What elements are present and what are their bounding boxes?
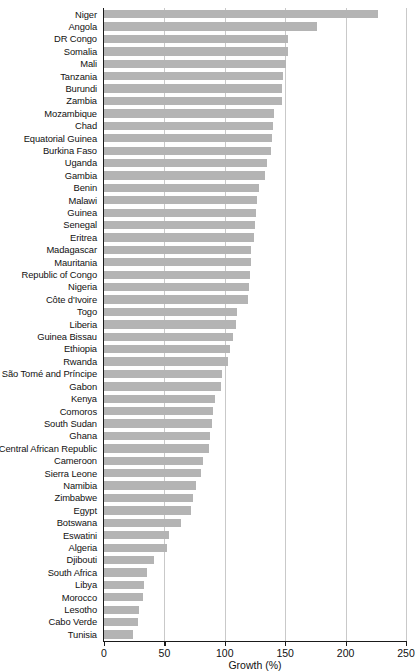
y-axis-label: Côte d'Ivoire bbox=[0, 293, 101, 305]
x-axis-tick-label: 150 bbox=[276, 647, 294, 659]
bar-row bbox=[104, 269, 406, 281]
y-axis-label: Eritrea bbox=[0, 231, 101, 243]
y-axis-label: Guinea Bissau bbox=[0, 331, 101, 343]
y-axis-label: Rwanda bbox=[0, 355, 101, 367]
bar bbox=[104, 246, 251, 254]
y-axis-label: Tunisia bbox=[0, 628, 101, 640]
bar bbox=[104, 370, 222, 378]
y-axis-label: São Tomé and Príncipe bbox=[0, 368, 101, 380]
x-axis-tick bbox=[104, 641, 105, 646]
y-axis-label: Benin bbox=[0, 182, 101, 194]
bar-row bbox=[104, 157, 406, 169]
bar bbox=[104, 432, 210, 440]
y-axis-label: Eswatini bbox=[0, 529, 101, 541]
gridline bbox=[406, 8, 407, 641]
bar-row bbox=[104, 132, 406, 144]
bar bbox=[104, 581, 144, 589]
y-axis-label: Somalia bbox=[0, 45, 101, 57]
y-axis-category-labels: NigerAngolaDR CongoSomaliaMaliTanzaniaBu… bbox=[0, 8, 101, 641]
bar bbox=[104, 295, 248, 303]
bar-row bbox=[104, 368, 406, 380]
bar-row bbox=[104, 380, 406, 392]
bar-row bbox=[104, 591, 406, 603]
x-axis-tick-label: 100 bbox=[216, 647, 234, 659]
y-axis-label: Cameroon bbox=[0, 455, 101, 467]
y-axis-label: Uganda bbox=[0, 157, 101, 169]
bar-row bbox=[104, 517, 406, 529]
y-axis-label: Burundi bbox=[0, 82, 101, 94]
x-axis-title: Growth (%) bbox=[104, 659, 406, 671]
bar bbox=[104, 271, 250, 279]
bar-row bbox=[104, 306, 406, 318]
bar-row bbox=[104, 393, 406, 405]
y-axis-label: Morocco bbox=[0, 591, 101, 603]
y-axis-label: Republic of Congo bbox=[0, 269, 101, 281]
bar-row bbox=[104, 70, 406, 82]
plot-area bbox=[104, 8, 406, 641]
bar bbox=[104, 10, 378, 18]
bar-row bbox=[104, 343, 406, 355]
growth-bar-chart: NigerAngolaDR CongoSomaliaMaliTanzaniaBu… bbox=[0, 0, 415, 672]
bar-row bbox=[104, 82, 406, 94]
x-axis-tick-label: 50 bbox=[159, 647, 171, 659]
bar-row bbox=[104, 182, 406, 194]
bar-row bbox=[104, 219, 406, 231]
bar bbox=[104, 519, 181, 527]
x-axis-tick-label: 200 bbox=[337, 647, 355, 659]
y-axis-label: Tanzania bbox=[0, 70, 101, 82]
y-axis-label: Kenya bbox=[0, 393, 101, 405]
y-axis-label: South Africa bbox=[0, 566, 101, 578]
bar bbox=[104, 506, 191, 514]
bar-row bbox=[104, 58, 406, 70]
y-axis-label: Comoros bbox=[0, 405, 101, 417]
bar-row bbox=[104, 256, 406, 268]
bar bbox=[104, 556, 154, 564]
y-axis-label: Senegal bbox=[0, 219, 101, 231]
bar-row bbox=[104, 33, 406, 45]
bar-row bbox=[104, 45, 406, 57]
bar-row bbox=[104, 281, 406, 293]
bar bbox=[104, 109, 274, 117]
bar bbox=[104, 233, 254, 241]
bar bbox=[104, 494, 193, 502]
x-axis-line bbox=[104, 641, 406, 642]
bar bbox=[104, 457, 203, 465]
bar bbox=[104, 97, 282, 105]
bar-row bbox=[104, 207, 406, 219]
x-axis-tick bbox=[406, 641, 407, 646]
bar-row bbox=[104, 405, 406, 417]
y-axis-label: Burkina Faso bbox=[0, 144, 101, 156]
x-axis-tick-label: 250 bbox=[397, 647, 415, 659]
bar-row bbox=[104, 604, 406, 616]
bar bbox=[104, 22, 317, 30]
bar bbox=[104, 593, 143, 601]
y-axis-label: Libya bbox=[0, 579, 101, 591]
bar bbox=[104, 333, 233, 341]
bar bbox=[104, 395, 215, 403]
x-axis-tick bbox=[346, 641, 347, 646]
x-axis-tick bbox=[164, 641, 165, 646]
bar-row bbox=[104, 554, 406, 566]
bar-row bbox=[104, 442, 406, 454]
bar-row bbox=[104, 8, 406, 20]
bar-row bbox=[104, 144, 406, 156]
bar-row bbox=[104, 120, 406, 132]
y-axis-label: Niger bbox=[0, 8, 101, 20]
bar bbox=[104, 618, 138, 626]
y-axis-label: DR Congo bbox=[0, 33, 101, 45]
bar-row bbox=[104, 492, 406, 504]
y-axis-label: Zimbabwe bbox=[0, 492, 101, 504]
y-axis-label: Sierra Leone bbox=[0, 467, 101, 479]
y-axis-label: South Sudan bbox=[0, 417, 101, 429]
y-axis-label: Zambia bbox=[0, 95, 101, 107]
bar bbox=[104, 382, 221, 390]
y-axis-label: Equatorial Guinea bbox=[0, 132, 101, 144]
bar bbox=[104, 407, 213, 415]
y-axis-label: Namibia bbox=[0, 479, 101, 491]
y-axis-line bbox=[103, 8, 104, 642]
y-axis-label: Egypt bbox=[0, 504, 101, 516]
y-axis-label: Nigeria bbox=[0, 281, 101, 293]
y-axis-label: Gambia bbox=[0, 169, 101, 181]
y-axis-label: Madagascar bbox=[0, 244, 101, 256]
y-axis-label: Mozambique bbox=[0, 107, 101, 119]
